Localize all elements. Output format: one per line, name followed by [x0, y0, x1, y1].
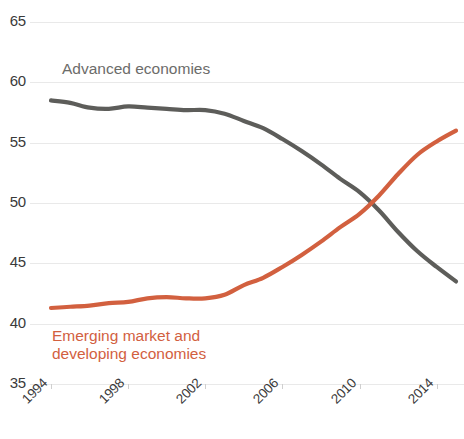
series-label-emerging-economies: Emerging market and developing economies: [52, 327, 206, 364]
series-line-advanced-economies: [51, 100, 456, 281]
series-label-advanced-line1: Advanced economies: [62, 60, 210, 77]
line-chart: 35404550556065 199419982002200620102014 …: [0, 0, 464, 439]
series-label-advanced-economies: Advanced economies: [62, 60, 210, 78]
series-label-emerging-line1: Emerging market and: [52, 327, 206, 345]
series-label-emerging-line2: developing economies: [52, 345, 206, 363]
series-line-emerging-market-and-developing-economies: [51, 131, 456, 308]
